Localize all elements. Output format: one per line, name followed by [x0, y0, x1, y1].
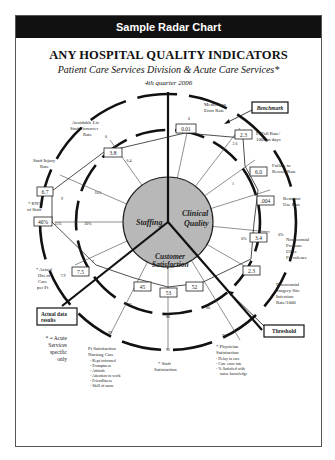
value-hrs: 7.5 [77, 269, 84, 275]
axis-label: Satisfaction [216, 350, 239, 355]
footnote-line: specific [50, 349, 68, 355]
tick: 0% [278, 232, 284, 237]
axis-label: Medication [204, 102, 226, 107]
axis-label: Ulcer [286, 249, 297, 254]
axis-label: Nosocomial [276, 282, 300, 287]
axis-label: per Pt [37, 285, 49, 290]
axis-label: Error Rate [204, 108, 224, 113]
tick: 10.5 [95, 190, 102, 195]
tick: 0% [241, 236, 247, 241]
axis-label: * Actual [36, 267, 53, 272]
axis-label: Pressure [286, 243, 302, 248]
axis-label: Satisfaction [154, 367, 177, 372]
value-pu: 3.4 [255, 235, 262, 241]
value-med: 0.01 [181, 126, 191, 132]
arrow-head-icon [224, 119, 230, 124]
value-ptsat: 45 [140, 284, 146, 290]
tick: 35% [54, 221, 62, 226]
footnote-line: * = Acute [46, 335, 68, 341]
axis-label: - Skill of nurse [90, 383, 114, 388]
axis-label: Prevalence [286, 255, 307, 260]
benchmark-text: Benchmark [256, 105, 284, 111]
axis-label: 1000 pt days [256, 137, 281, 142]
radar-chart: Staffing Clinical Quality Customer Satis… [0, 0, 335, 460]
axis-label: nurse knowledge [220, 371, 247, 376]
axis-label: Staff Injury [33, 158, 56, 163]
tick: 9 [61, 196, 63, 201]
axis-label: Infection [276, 294, 294, 299]
threshold-text: Threshold [272, 328, 296, 334]
tick: 1 [232, 181, 234, 186]
tick: 95 [166, 347, 170, 352]
axis-label: Rate [83, 132, 92, 137]
axis-label: Restraint [283, 196, 301, 201]
footnote-line: only [57, 356, 67, 362]
tick: 75 [128, 302, 132, 307]
tick: 7 [92, 259, 94, 264]
tick: 30% [84, 221, 92, 226]
tick: 95 [222, 333, 226, 338]
tick: 6.4 [127, 158, 132, 163]
tick: 0 [188, 116, 190, 121]
value-turn: 3.8 [110, 150, 117, 156]
tick: 0 [105, 134, 107, 139]
axis-label: Staff Turnover [70, 126, 98, 131]
tick: 7.9 [61, 273, 66, 278]
axis-label: Nosocomial [286, 237, 310, 242]
axis-label: * Physician [216, 344, 239, 349]
axis-label: Care [38, 279, 47, 284]
customer-label-2: Satisfaction [152, 260, 189, 269]
tick: 80 [166, 314, 170, 319]
axis-label: Rate [40, 164, 49, 169]
threshold-arrow [230, 293, 264, 326]
tick: 80 [206, 305, 210, 310]
value-phys: 52 [192, 284, 198, 290]
clinical-label-1: Clinical [182, 209, 209, 218]
clinical-label-2: Quality [184, 219, 209, 228]
axis-label: Pt Fall Rate/ [256, 131, 281, 136]
value-restraint: .004 [261, 198, 271, 204]
tick: 2.6 [233, 141, 238, 146]
axis-label: Avoidable Lic [72, 120, 99, 125]
value-rn: 40% [38, 219, 49, 225]
staffing-label: Staffing [136, 218, 163, 227]
value-ftr: 6.0 [255, 169, 262, 175]
tick: 99 [108, 330, 112, 335]
value-ssi: 2.3 [248, 268, 255, 274]
value-inj: 6.7 [42, 189, 49, 195]
axis-label: Rescue Rate [272, 169, 296, 174]
axis-label: Pt Satisfaction [88, 346, 116, 351]
axis-label: Use Rate [283, 202, 300, 207]
value-staff: 53 [166, 290, 172, 296]
axis-label: Nursing Care [88, 352, 114, 357]
axis-label: Hrs of [38, 273, 51, 278]
axis-label: Surgery Site [276, 288, 300, 293]
footnote-line: Services [48, 342, 67, 348]
actual-data-text: results [41, 317, 56, 323]
axis-label: of Staff [27, 207, 42, 212]
value-fall: 2.3 [240, 132, 247, 138]
axis-label: Rate/1000 [276, 300, 296, 305]
footnote: * = Acute Services specific only [46, 335, 68, 362]
axis-label: * RN% [28, 201, 42, 206]
axis-label: * Staff [158, 361, 171, 366]
axis-label: Failure to [272, 163, 291, 168]
